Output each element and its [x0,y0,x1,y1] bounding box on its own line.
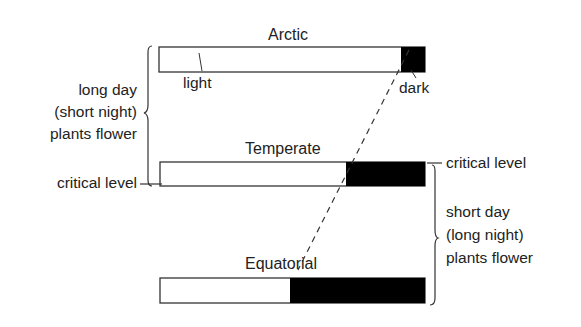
temperate-dark-segment [346,162,425,186]
equatorial-label: Equatorial [245,254,317,274]
arctic-dark-segment [401,47,425,72]
dashed-trend-line [298,50,409,270]
short-day-line3: plants flower [446,248,533,268]
temperate-bar [160,162,425,186]
long-day-line1: long day [0,80,137,100]
arctic-label: Arctic [268,25,308,45]
long-day-line3: plants flower [0,124,137,144]
equatorial-dark-segment [290,278,425,303]
right-brace [430,165,438,305]
left-brace [144,46,152,186]
critical-level-left: critical level [0,173,137,193]
equatorial-bar [160,278,425,303]
arctic-bar [159,47,425,72]
light-label: light [183,73,211,93]
long-day-line2: (short night) [0,102,137,122]
temperate-label: Temperate [245,139,321,159]
critical-level-right: critical level [446,153,526,173]
short-day-line1: short day [446,202,510,222]
short-day-line2: (long night) [446,225,524,245]
dark-label: dark [399,78,429,98]
